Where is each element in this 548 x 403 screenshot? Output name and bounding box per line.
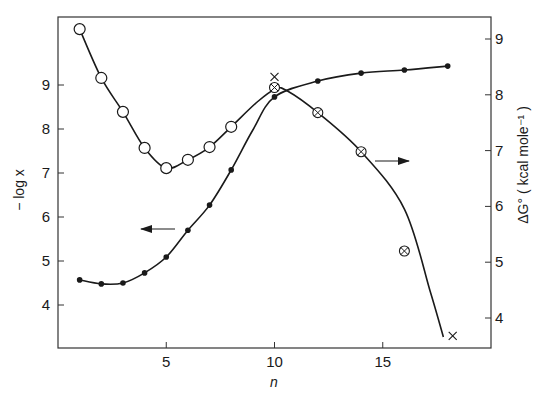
filled-dot-marker xyxy=(77,277,83,283)
x-axis-ticks: 51015 xyxy=(162,342,391,370)
cross-marker xyxy=(271,73,279,81)
chart: 51015 456789 456789 n − log x ΔG° ( kcal… xyxy=(0,0,548,403)
right-tick-label: 7 xyxy=(495,142,503,159)
left-tick-label: 7 xyxy=(42,164,50,181)
left-axis-label: − log x xyxy=(11,169,27,211)
right-arrow-icon xyxy=(398,157,410,165)
filled-dot-marker xyxy=(358,70,364,76)
right-tick-label: 4 xyxy=(495,309,503,326)
filled-dot-marker xyxy=(445,63,451,69)
open-circle-and-dG-curve xyxy=(80,29,444,337)
open-circle-marker xyxy=(226,121,237,132)
x-tick-label: 15 xyxy=(374,353,391,370)
open-circle-marker xyxy=(74,24,85,35)
filled-dot-marker xyxy=(315,78,321,84)
open-circle-marker xyxy=(96,72,107,83)
right-tick-label: 9 xyxy=(495,30,503,47)
open-circle-marker xyxy=(182,154,193,165)
x-tick-label: 5 xyxy=(162,353,170,370)
plot-frame xyxy=(58,17,491,348)
filled-dot-marker xyxy=(185,227,191,233)
open-circle-marker xyxy=(117,106,128,117)
left-tick-label: 4 xyxy=(42,296,50,313)
filled-dot-marker xyxy=(163,254,169,260)
left-tick-label: 9 xyxy=(42,76,50,93)
left-arrow-icon xyxy=(140,225,152,233)
filled-dot-marker xyxy=(207,202,213,208)
fit-curves xyxy=(80,29,448,337)
cross-marker xyxy=(449,332,457,340)
filled-dot-marker xyxy=(142,270,148,276)
right-axis-label: ΔG° ( kcal mole⁻¹ ) xyxy=(515,106,531,224)
open-circle-marker xyxy=(161,163,172,174)
filled-dot-marker xyxy=(99,281,105,287)
right-axis-ticks: 456789 xyxy=(485,30,503,326)
axis-arrows xyxy=(140,157,410,233)
left-tick-label: 8 xyxy=(42,120,50,137)
left-axis-ticks: 456789 xyxy=(42,76,64,313)
right-tick-label: 8 xyxy=(495,86,503,103)
x-tick-label: 10 xyxy=(266,353,283,370)
filled-dot-marker xyxy=(402,67,408,73)
right-tick-label: 6 xyxy=(495,197,503,214)
open-circle-marker xyxy=(204,142,215,153)
left-tick-label: 5 xyxy=(42,252,50,269)
left-tick-label: 6 xyxy=(42,208,50,225)
filled-dot-curve xyxy=(80,66,448,284)
filled-dot-marker xyxy=(228,167,234,173)
x-axis-label: n xyxy=(270,374,278,390)
filled-dot-marker xyxy=(120,280,126,286)
right-tick-label: 5 xyxy=(495,253,503,270)
filled-dot-marker xyxy=(272,94,278,100)
open-circle-marker xyxy=(139,142,150,153)
